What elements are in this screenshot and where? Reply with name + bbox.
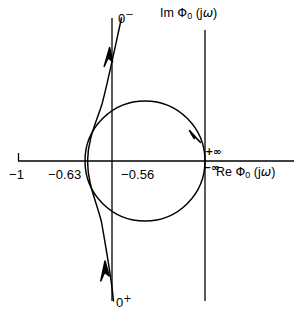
zero-plus-superscript: +: [123, 293, 131, 304]
circle-direction-arrowhead: [190, 131, 201, 143]
im-arg-close: ): [213, 6, 217, 20]
re-phi-symbol: Φ: [235, 164, 245, 179]
real-axis-label: Re Φ0 (jω): [216, 166, 275, 180]
re-arg-close: ): [271, 165, 275, 179]
imaginary-axis-label: Im Φ0 (jω): [160, 7, 217, 21]
im-prefix: Im: [160, 6, 177, 20]
im-phi-symbol: Φ: [177, 5, 187, 20]
im-arg-open: (j: [192, 6, 202, 20]
tick-label-neg-063: −0.63: [48, 168, 81, 181]
plus-infinity-annotation: +∞: [205, 147, 221, 157]
zero-minus-superscript: −: [125, 9, 133, 20]
minus-infinity-annotation: −∞: [203, 163, 219, 173]
re-omega-symbol: ω: [261, 164, 271, 179]
re-arg-open: (j: [250, 165, 260, 179]
tick-label-neg-056: −0.56: [121, 168, 154, 181]
zero-plus-annotation: 0+: [116, 294, 132, 309]
im-omega-symbol: ω: [203, 5, 213, 20]
zero-minus-annotation: 0−: [118, 10, 134, 25]
plot-canvas: [0, 0, 294, 321]
nyquist-figure: Im Φ0 (jω) Re Φ0 (jω) 0− 0+ −1 −0.63 −0.…: [0, 0, 294, 321]
tick-label-neg-one: −1: [9, 168, 24, 181]
nyquist-tail-curve: [88, 18, 122, 301]
